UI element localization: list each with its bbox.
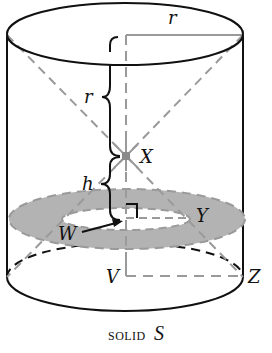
brace-r — [102, 64, 120, 156]
label-point-x: X — [138, 146, 154, 167]
arrowhead-icon — [112, 219, 123, 227]
caption-word: solid — [108, 325, 146, 344]
label-point-z: Z — [247, 266, 261, 287]
label-upper-segment-r: r — [84, 86, 94, 107]
caption: solid S — [108, 322, 164, 344]
upper-cone-right-line — [126, 35, 243, 156]
label-point-v: V — [106, 266, 121, 287]
label-lower-segment-h: h — [82, 173, 94, 194]
label-top-radius: r — [168, 7, 178, 28]
solid-s-diagram: r r h X Y W V Z solid S — [0, 0, 272, 353]
top-bracket-hook — [110, 37, 118, 52]
caption-symbol: S — [154, 322, 164, 344]
base-ellipse-front — [7, 277, 243, 311]
label-point-w: W — [58, 223, 78, 244]
